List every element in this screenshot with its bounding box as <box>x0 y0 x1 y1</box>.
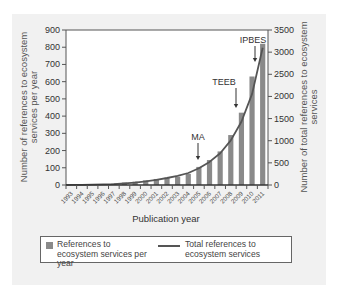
left-tick-label: 600 <box>45 77 60 87</box>
right-tick-label: 1000 <box>274 136 294 146</box>
bar-2004 <box>186 174 191 185</box>
left-tick-label: 700 <box>45 59 60 69</box>
annotation-ipbes: IPBES <box>240 35 267 45</box>
right-axis-title: Number of total references to ecosystems… <box>298 21 319 192</box>
left-tick-label: 200 <box>45 146 60 156</box>
bar-2003 <box>175 177 180 185</box>
right-tick-label: 2500 <box>274 69 294 79</box>
left-tick-label: 500 <box>45 94 60 104</box>
annotation-teeb: TEEB <box>212 77 236 87</box>
legend-line-label: Total references to ecosystem services <box>185 240 293 259</box>
left-tick-label: 900 <box>45 25 60 35</box>
bar-2007 <box>218 151 223 185</box>
legend-line-swatch-icon <box>158 245 180 247</box>
x-axis-title: Publication year <box>132 213 200 224</box>
left-tick-label: 100 <box>45 163 60 173</box>
right-tick-label: 2000 <box>274 91 294 101</box>
legend: References to ecosystem services per yea… <box>40 236 292 263</box>
left-axis-title: Number of references to ecosystemservice… <box>18 32 39 183</box>
right-tick-label: 1500 <box>274 114 294 124</box>
right-tick-label: 500 <box>274 158 289 168</box>
x-tick-label: 2011 <box>251 189 266 204</box>
bar-2011 <box>260 44 265 185</box>
left-tick-label: 400 <box>45 111 60 121</box>
right-tick-label: 3500 <box>274 25 294 35</box>
left-tick-label: 300 <box>45 128 60 138</box>
legend-bar-label: References to ecosystem services per yea… <box>57 240 152 269</box>
plot-area <box>66 30 268 185</box>
right-tick-label: 0 <box>274 180 279 190</box>
annotation-ma: MA <box>191 132 205 142</box>
legend-bar-swatch-icon <box>46 242 53 249</box>
left-tick-label: 800 <box>45 42 60 52</box>
left-tick-label: 0 <box>55 180 60 190</box>
right-tick-label: 3000 <box>274 47 294 57</box>
